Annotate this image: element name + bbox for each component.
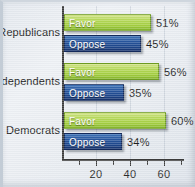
x-tick-50 <box>147 161 148 165</box>
plot-area: Favor 51% Oppose 45% Favor 56% Oppose 35… <box>62 6 180 159</box>
category-label-republicans: Republicans <box>0 26 60 38</box>
gridline-60 <box>164 6 165 159</box>
x-tick-label-20: 20 <box>90 168 103 180</box>
bar-series-label: Favor <box>69 17 96 28</box>
category-label-independents: Independents <box>0 75 60 87</box>
bar-series-label: Oppose <box>69 87 105 98</box>
bar-series-label: Favor <box>69 66 96 77</box>
bar-independents-oppose[interactable]: Oppose <box>64 84 124 101</box>
x-tick-label-60: 60 <box>158 168 171 180</box>
bar-democrats-oppose[interactable]: Oppose <box>64 133 122 150</box>
x-tick-40 <box>130 161 131 166</box>
x-tick-label-40: 40 <box>124 168 137 180</box>
x-tick-70 <box>181 161 182 165</box>
value-label-republicans-oppose: 45% <box>146 38 169 50</box>
x-tick-10 <box>79 161 80 165</box>
value-label-democrats-favor: 60% <box>171 115 194 127</box>
bar-series-label: Favor <box>69 115 96 126</box>
bar-series-label: Oppose <box>69 38 105 49</box>
y-axis-line <box>62 6 64 159</box>
value-label-independents-oppose: 35% <box>129 87 152 99</box>
x-tick-30 <box>113 161 114 165</box>
x-axis-line <box>62 159 184 161</box>
bar-series-label: Oppose <box>69 136 105 147</box>
category-axis: Republicans Independents Democrats <box>0 0 60 187</box>
value-label-democrats-oppose: 34% <box>127 136 150 148</box>
category-label-democrats: Democrats <box>6 124 60 136</box>
bar-democrats-favor[interactable]: Favor <box>64 112 166 129</box>
bar-chart-figure: Republicans Independents Democrats Favor… <box>0 0 195 187</box>
x-tick-20 <box>96 161 97 166</box>
value-label-independents-favor: 56% <box>164 66 187 78</box>
bar-republicans-oppose[interactable]: Oppose <box>64 35 141 52</box>
bar-independents-favor[interactable]: Favor <box>64 63 159 80</box>
bar-republicans-favor[interactable]: Favor <box>64 14 151 31</box>
x-tick-60 <box>164 161 165 166</box>
value-label-republicans-favor: 51% <box>156 17 179 29</box>
